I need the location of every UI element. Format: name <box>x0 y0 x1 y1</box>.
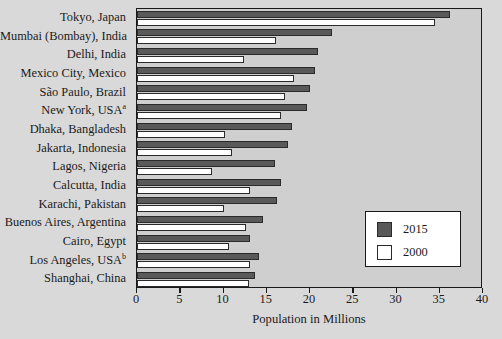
bar-2000 <box>137 19 435 26</box>
category-label: Tokyo, Japan <box>0 8 131 27</box>
x-axis-title: Population in Millions <box>136 312 482 327</box>
x-axis-tick-labels: 0510152025303540 <box>136 292 482 308</box>
bar-group <box>137 270 481 289</box>
x-tick-label: 10 <box>216 292 228 307</box>
legend-swatch <box>377 245 392 260</box>
bar-2015 <box>137 48 318 55</box>
x-tick-label: 15 <box>260 292 272 307</box>
x-tick-label: 35 <box>433 292 445 307</box>
bar-2015 <box>137 272 255 279</box>
bar-group <box>137 177 481 196</box>
bar-2000 <box>137 37 276 44</box>
bar-2000 <box>137 205 224 212</box>
bar-2015 <box>137 141 288 148</box>
bar-2000 <box>137 243 229 250</box>
bar-2000 <box>137 280 249 287</box>
bar-2015 <box>137 179 281 186</box>
x-tick-label: 40 <box>476 292 488 307</box>
bar-group <box>137 158 481 177</box>
x-tick-label: 20 <box>303 292 315 307</box>
x-tick-label: 5 <box>176 292 182 307</box>
bar-2015 <box>137 67 315 74</box>
category-label: New York, USAa <box>0 101 131 120</box>
bar-2015 <box>137 11 450 18</box>
bar-group <box>137 9 481 28</box>
bar-2015 <box>137 216 263 223</box>
category-label: Mumbai (Bombay), India <box>0 27 131 46</box>
bar-group <box>137 46 481 65</box>
category-label: Calcutta, India <box>0 176 131 195</box>
category-label: Karachi, Pakistan <box>0 195 131 214</box>
population-bar-chart: Tokyo, JapanMumbai (Bombay), IndiaDelhi,… <box>0 0 502 339</box>
bar-2015 <box>137 253 259 260</box>
legend-swatch <box>377 222 392 237</box>
category-label: Delhi, India <box>0 45 131 64</box>
legend-entry: 2000 <box>377 242 460 262</box>
bar-2015 <box>137 235 250 242</box>
category-label: Lagos, Nigeria <box>0 157 131 176</box>
bar-group <box>137 121 481 140</box>
category-label-column: Tokyo, JapanMumbai (Bombay), IndiaDelhi,… <box>0 8 131 288</box>
bar-group <box>137 28 481 47</box>
bar-2000 <box>137 131 225 138</box>
bar-2015 <box>137 123 292 130</box>
legend-label: 2015 <box>403 222 428 237</box>
category-label: Buenos Aires, Argentina <box>0 213 131 232</box>
bar-2000 <box>137 261 250 268</box>
category-label: Shanghai, China <box>0 269 131 288</box>
footnote-marker: a <box>122 102 126 111</box>
bar-2015 <box>137 197 277 204</box>
legend-label: 2000 <box>403 245 428 260</box>
x-tick-label: 30 <box>389 292 401 307</box>
bar-2015 <box>137 29 332 36</box>
bar-group <box>137 140 481 159</box>
bar-2000 <box>137 224 246 231</box>
legend-entry: 2015 <box>377 219 460 239</box>
bar-2000 <box>137 187 250 194</box>
category-label: Mexico City, Mexico <box>0 64 131 83</box>
category-label: Los Angeles, USAb <box>0 251 131 270</box>
bar-2000 <box>137 93 285 100</box>
bar-group <box>137 84 481 103</box>
category-label: São Paulo, Brazil <box>0 83 131 102</box>
bar-2015 <box>137 160 275 167</box>
bar-2000 <box>137 149 232 156</box>
bar-2000 <box>137 75 294 82</box>
bar-2000 <box>137 112 281 119</box>
x-tick-label: 0 <box>133 292 139 307</box>
bar-group <box>137 102 481 121</box>
footnote-marker: b <box>122 251 126 260</box>
category-label: Jakarta, Indonesia <box>0 139 131 158</box>
bar-2000 <box>137 168 212 175</box>
chart-legend: 20152000 <box>365 211 461 267</box>
bar-2000 <box>137 56 244 63</box>
bar-2015 <box>137 104 307 111</box>
bar-group <box>137 65 481 84</box>
bar-2015 <box>137 85 310 92</box>
category-label: Dhaka, Bangladesh <box>0 120 131 139</box>
category-label: Cairo, Egypt <box>0 232 131 251</box>
x-tick-label: 25 <box>346 292 358 307</box>
